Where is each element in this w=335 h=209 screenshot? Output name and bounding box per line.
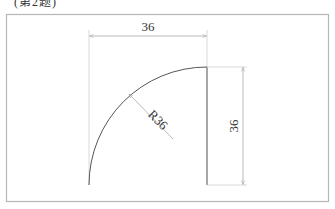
drawing-canvas: 36 36 R36 (0, 0, 335, 209)
radius-label: R36 (145, 107, 171, 133)
drawing-frame (7, 15, 329, 202)
vertical-dimension-label: 36 (226, 119, 241, 133)
horizontal-dimension-label: 36 (142, 19, 156, 34)
arc-r36 (89, 67, 207, 185)
